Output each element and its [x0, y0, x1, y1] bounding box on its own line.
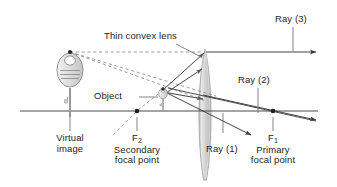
focal-point-f2-marker [135, 109, 140, 114]
label-f1-line2: focal point [240, 155, 306, 166]
label-primary-focal-point: F1 Primary focal point [240, 133, 306, 166]
label-f2-line2: focal point [101, 155, 173, 166]
label-ray-2: Ray (2) [238, 75, 270, 86]
label-f2-subscript: 2 [138, 137, 142, 144]
label-virtual-image-line1: Virtual [44, 133, 96, 144]
leader-thin-convex-lens [176, 44, 201, 57]
label-f1: F1 [240, 133, 306, 145]
label-ray-3: Ray (3) [275, 14, 307, 25]
label-virtual-image-line2: image [44, 144, 96, 155]
virtual-image-key [57, 50, 83, 117]
object-tip-point [161, 87, 164, 90]
label-virtual-image: Virtual image [44, 133, 96, 154]
label-f2: F2 [101, 133, 173, 145]
object-key [159, 87, 168, 112]
label-secondary-focal-point: F2 Secondary focal point [101, 133, 173, 166]
label-object: Object [94, 91, 122, 102]
dashed-low-ray [70, 52, 206, 101]
lens-ray-diagram: Thin convex lens Ray (3) Ray (2) Ray (1)… [0, 0, 337, 187]
label-ray-1: Ray (1) [206, 144, 238, 155]
focal-point-f1-marker [271, 109, 276, 114]
virtual-image-tip-point [68, 50, 72, 54]
label-thin-convex-lens: Thin convex lens [104, 31, 177, 42]
label-f1-subscript: 1 [274, 137, 278, 144]
